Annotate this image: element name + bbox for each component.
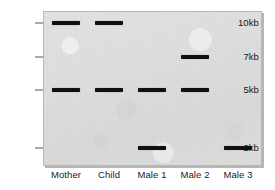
- band-child-5kb: [95, 88, 123, 92]
- tick-label-7kb: 7kb: [243, 52, 259, 62]
- tick-mark-2kb: [35, 148, 43, 149]
- band-male1-2kb: [138, 146, 166, 150]
- lane-label-male-2: Male 2: [180, 170, 209, 180]
- lane-label-male-1: Male 1: [137, 170, 166, 180]
- tick-mark-5kb: [35, 90, 43, 91]
- gel-electrophoresis-figure: 10kb 7kb 5kb 2kb Mother Child Male 1 Mal…: [0, 0, 275, 190]
- lane-label-child: Child: [98, 170, 120, 180]
- lane-label-male-3: Male 3: [223, 170, 252, 180]
- tick-label-5kb: 5kb: [243, 85, 259, 95]
- lane-label-mother: Mother: [51, 170, 81, 180]
- band-mother-5kb: [52, 88, 80, 92]
- band-male2-7kb: [181, 55, 209, 59]
- tick-mark-7kb: [35, 57, 43, 58]
- band-child-10kb: [95, 21, 123, 25]
- band-male2-5kb: [181, 88, 209, 92]
- tick-label-10kb: 10kb: [238, 18, 259, 28]
- band-male1-5kb: [138, 88, 166, 92]
- band-male3-2kb: [224, 146, 252, 150]
- band-mother-10kb: [52, 21, 80, 25]
- tick-mark-10kb: [35, 23, 43, 24]
